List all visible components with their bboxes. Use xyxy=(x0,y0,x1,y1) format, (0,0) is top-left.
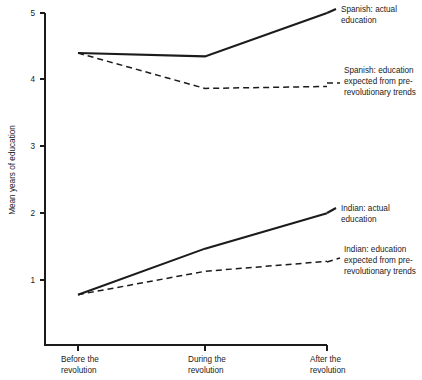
x-category-label-after-line1: After the xyxy=(310,355,341,364)
x-category-label-during-line1: During the xyxy=(188,355,226,364)
leader-spanish-actual xyxy=(327,9,336,13)
annotation-indian-expected: Indian: education expected from pre- rev… xyxy=(344,245,416,276)
series-spanish-expected xyxy=(78,53,327,88)
annotation-indian-actual: Indian: actual education xyxy=(341,204,390,224)
y-tick-label-5: 5 xyxy=(30,9,35,18)
annotation-indian-expected-line1: Indian: education xyxy=(344,245,407,254)
annotation-indian-actual-line2: education xyxy=(341,215,377,224)
line-chart-canvas: 5 4 3 2 1 Mean years of education Before… xyxy=(0,0,422,380)
annotation-spanish-actual-line2: education xyxy=(341,16,377,25)
annotation-indian-expected-line2: expected from pre- xyxy=(344,256,413,265)
chart-figure: 5 4 3 2 1 Mean years of education Before… xyxy=(0,0,422,380)
series-indian-actual xyxy=(78,213,327,294)
axis-lines xyxy=(45,13,327,345)
annotation-spanish-expected-line3: revolutionary trends xyxy=(344,88,416,97)
y-tick-label-1: 1 xyxy=(30,276,35,285)
annotation-indian-actual-line1: Indian: actual xyxy=(341,204,390,213)
y-tick-label-4: 4 xyxy=(30,75,35,84)
series-group xyxy=(78,13,327,295)
annotation-spanish-expected-line1: Spanish: education xyxy=(344,66,414,75)
y-axis-title: Mean years of education xyxy=(8,125,17,215)
y-tick-label-2: 2 xyxy=(30,209,35,218)
x-category-label-before-line1: Before the xyxy=(61,355,99,364)
leader-indian-actual xyxy=(327,208,336,213)
leader-indian-expected xyxy=(327,258,340,262)
x-category-label-during-line2: revolution xyxy=(188,366,224,375)
annotation-spanish-actual: Spanish: actual education xyxy=(341,5,397,25)
annotation-leaders xyxy=(327,9,340,262)
x-category-label-before-line2: revolution xyxy=(61,366,97,375)
annotation-spanish-actual-line1: Spanish: actual xyxy=(341,5,397,14)
series-indian-expected xyxy=(78,261,327,294)
annotation-spanish-expected: Spanish: education expected from pre- re… xyxy=(344,66,416,97)
annotation-indian-expected-line3: revolutionary trends xyxy=(344,267,416,276)
x-category-label-after-line2: revolution xyxy=(310,366,346,375)
y-tick-label-3: 3 xyxy=(30,142,35,151)
annotation-spanish-expected-line2: expected from pre- xyxy=(344,77,413,86)
axis-group: 5 4 3 2 1 Mean years of education Before… xyxy=(8,9,346,375)
series-spanish-actual xyxy=(78,13,327,56)
